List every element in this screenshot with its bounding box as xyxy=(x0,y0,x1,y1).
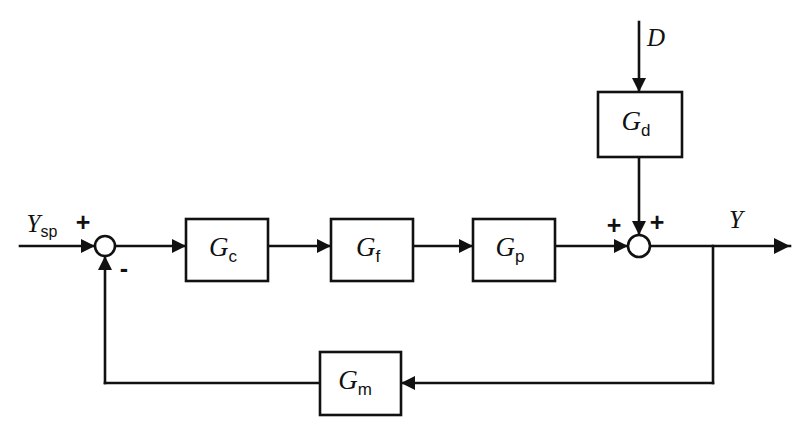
disturbance-label: D xyxy=(646,24,665,51)
output-junction-plus-sign-top: + xyxy=(650,208,665,236)
gd-input-arrow-icon xyxy=(632,78,646,92)
block-process[interactable]: Gp xyxy=(473,219,555,281)
error-junction-circle[interactable] xyxy=(95,236,115,256)
sum-input-arrow-icon xyxy=(614,239,628,253)
output-junction-plus-sign-left: + xyxy=(607,211,622,239)
error-junction-minus-sign: - xyxy=(120,254,128,282)
setpoint-arrow-icon xyxy=(81,239,95,253)
gm-input-arrow-icon xyxy=(401,376,415,390)
block-diagram-canvas: Gc Gf Gp Gd Gm xyxy=(0,0,807,436)
sum-top-arrow-icon xyxy=(632,221,646,235)
signal-paths xyxy=(20,22,790,383)
output-junction-circle[interactable] xyxy=(628,235,650,257)
block-measurement[interactable]: Gm xyxy=(320,352,401,415)
block-controller[interactable]: Gc xyxy=(186,219,268,281)
gc-input-arrow-icon xyxy=(172,239,186,253)
feedback-arrow-icon xyxy=(98,256,112,270)
block-diagram-svg: Gc Gf Gp Gd Gm xyxy=(0,0,807,436)
setpoint-label: Ysp xyxy=(27,210,58,241)
gp-input-arrow-icon xyxy=(459,239,473,253)
output-label: Y xyxy=(729,206,746,233)
gf-input-arrow-icon xyxy=(317,239,331,253)
output-arrow-icon xyxy=(774,238,790,254)
block-disturbance[interactable]: Gd xyxy=(598,92,682,157)
error-junction-plus-sign: + xyxy=(76,208,91,236)
block-final-element[interactable]: Gf xyxy=(331,219,413,281)
